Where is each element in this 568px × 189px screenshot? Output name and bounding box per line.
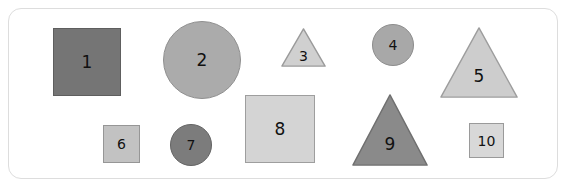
shape-square-8[interactable]: 8 <box>245 95 315 163</box>
shape-circle-2[interactable]: 2 <box>163 21 241 99</box>
shape-label-5: 5 <box>440 68 518 85</box>
shape-square-1[interactable]: 1 <box>53 28 121 96</box>
shape-label-3: 3 <box>281 49 326 63</box>
shape-circle-4[interactable]: 4 <box>372 24 414 66</box>
shape-label-6: 6 <box>117 137 126 151</box>
shape-label-9: 9 <box>352 136 428 153</box>
shape-label-10: 10 <box>478 134 496 148</box>
shape-label-4: 4 <box>389 38 398 52</box>
shape-square-10[interactable]: 10 <box>469 123 504 158</box>
shape-triangle-3[interactable]: 3 <box>281 28 326 67</box>
shape-canvas: 12345678910 <box>0 0 568 189</box>
triangle-glyph-5 <box>440 27 518 98</box>
shape-triangle-5[interactable]: 5 <box>440 27 518 98</box>
shape-square-6[interactable]: 6 <box>103 125 140 163</box>
shape-label-1: 1 <box>82 54 93 71</box>
shape-circle-7[interactable]: 7 <box>170 124 212 166</box>
triangle-glyph-9 <box>352 94 428 166</box>
shape-triangle-9[interactable]: 9 <box>352 94 428 166</box>
shape-label-7: 7 <box>187 138 196 152</box>
shape-label-2: 2 <box>197 52 208 69</box>
shape-label-8: 8 <box>275 121 286 138</box>
